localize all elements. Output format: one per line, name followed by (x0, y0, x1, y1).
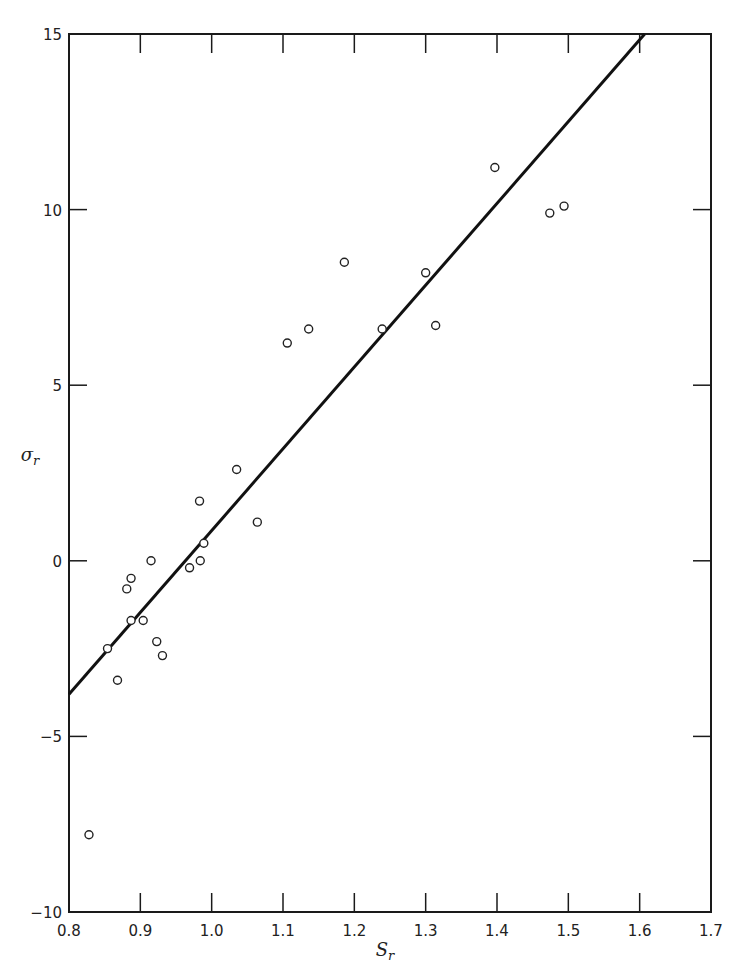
x-tick-label: 1.3 (414, 922, 438, 940)
data-point (85, 831, 93, 839)
data-point (147, 557, 155, 565)
x-tick-label: 1.5 (556, 922, 580, 940)
scatter-chart: 0.80.91.01.11.21.31.41.51.61.7−10−505101… (0, 0, 749, 972)
y-tick-label: 0 (52, 553, 62, 571)
regression-line (69, 34, 645, 694)
data-point (546, 209, 554, 217)
y-tick-label: 10 (43, 202, 62, 220)
x-tick-label: 1.7 (699, 922, 723, 940)
data-point (340, 258, 348, 266)
x-tick-label: 1.4 (485, 922, 509, 940)
data-points (85, 163, 568, 838)
data-point (186, 564, 194, 572)
data-point (200, 539, 208, 547)
x-tick-label: 1.6 (628, 922, 652, 940)
data-point (114, 676, 122, 684)
data-point (422, 269, 430, 277)
x-tick-label: 1.2 (342, 922, 366, 940)
data-point (491, 163, 499, 171)
data-point (253, 518, 261, 526)
data-point (283, 339, 291, 347)
y-tick-label: 15 (43, 26, 62, 44)
y-tick-label: −5 (40, 728, 62, 746)
data-point (139, 617, 147, 625)
y-tick-label: −10 (30, 904, 62, 922)
data-point (432, 321, 440, 329)
y-axis-label: σr (21, 444, 40, 468)
plot-frame (69, 34, 711, 912)
data-point (158, 652, 166, 660)
x-axis-label: Sr (376, 939, 395, 963)
data-point (127, 574, 135, 582)
data-point (560, 202, 568, 210)
data-point (127, 617, 135, 625)
axis-ticks (69, 34, 711, 912)
data-point (123, 585, 131, 593)
data-point (305, 325, 313, 333)
x-tick-label: 0.8 (57, 922, 81, 940)
data-point (153, 638, 161, 646)
y-tick-label: 5 (52, 377, 62, 395)
x-tick-label: 1.0 (200, 922, 224, 940)
data-point (104, 645, 112, 653)
data-point (196, 557, 204, 565)
data-point (378, 325, 386, 333)
tick-labels: 0.80.91.01.11.21.31.41.51.61.7−10−505101… (30, 26, 723, 940)
data-point (196, 497, 204, 505)
x-tick-label: 0.9 (128, 922, 152, 940)
data-point (233, 465, 241, 473)
x-tick-label: 1.1 (271, 922, 295, 940)
